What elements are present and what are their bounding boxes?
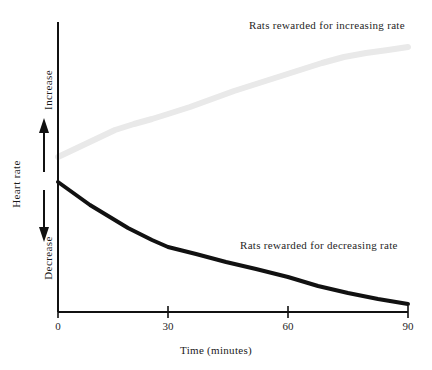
series-line-increasing-rate xyxy=(58,47,408,157)
y-axis-direction-label-decrease: Decrease xyxy=(42,226,54,290)
chart-plot-area xyxy=(0,0,432,370)
x-tick-label-30: 30 xyxy=(153,320,183,332)
chart-figure: Rats rewarded for increasing rate Rats r… xyxy=(0,0,432,370)
series-annotation-increasing-rate: Rats rewarded for increasing rate xyxy=(249,19,405,31)
x-tick-label-0: 0 xyxy=(43,320,73,332)
y-axis-direction-label-increase: Increase xyxy=(42,58,54,122)
series-annotation-decreasing-rate: Rats rewarded for decreasing rate xyxy=(240,239,398,251)
y-axis-title: Heart rate xyxy=(10,152,22,216)
x-tick-label-90: 90 xyxy=(393,320,423,332)
x-tick-label-60: 60 xyxy=(273,320,303,332)
x-axis-title: Time (minutes) xyxy=(0,344,432,356)
increase-arrow-icon xyxy=(39,118,49,172)
